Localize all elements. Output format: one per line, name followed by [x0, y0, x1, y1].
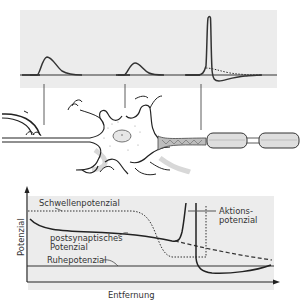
psp-label-line2: Potenzial — [50, 242, 88, 252]
presynaptic-axon — [2, 114, 40, 135]
resting-label: Ruhepotenzial — [47, 255, 107, 265]
dendrite-branches-top — [68, 100, 100, 118]
nucleus — [113, 130, 131, 142]
y-axis-arrow-icon — [25, 186, 30, 193]
top-panel — [20, 10, 277, 88]
threshold-label: Schwellenpotenzial — [39, 198, 120, 208]
neuron-potential-diagram: Schwellenpotenzial postsynaptisches Pote… — [0, 0, 307, 300]
myelin-sheath-1 — [207, 133, 247, 148]
potential-distance-chart: Schwellenpotenzial postsynaptisches Pote… — [16, 186, 280, 300]
y-axis-label: Potenzial — [16, 218, 26, 256]
x-axis-label: Entfernung — [108, 290, 155, 300]
dendrite-branches-bottom — [100, 162, 170, 175]
ap-label-line2: potenzial — [219, 215, 257, 225]
neuron-illustration — [2, 96, 299, 175]
x-axis-arrow-icon — [273, 280, 280, 285]
myelin-sheath-2 — [259, 133, 299, 148]
synapse-bouton — [26, 132, 41, 136]
soma-outline-bottom — [76, 142, 170, 174]
